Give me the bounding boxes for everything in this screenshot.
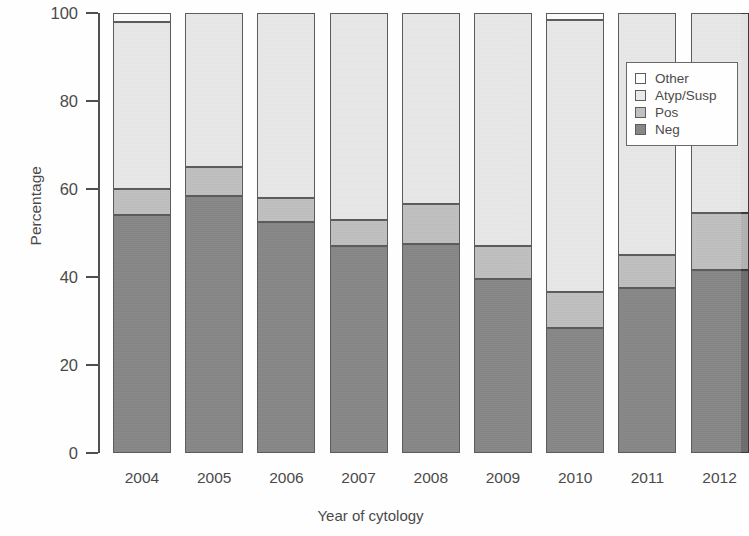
legend-item-neg: Neg bbox=[635, 121, 731, 138]
y-axis-tick-label: 20 bbox=[20, 357, 78, 373]
bar-2009 bbox=[474, 13, 532, 453]
bar-2010 bbox=[546, 13, 604, 453]
y-axis-tick bbox=[86, 100, 98, 102]
y-axis-tick-label: 40 bbox=[20, 269, 78, 285]
legend-item-other: Other bbox=[635, 70, 731, 87]
bar-segment-pos bbox=[330, 220, 388, 246]
x-axis-tick-label: 2006 bbox=[257, 470, 315, 486]
y-axis-tick bbox=[86, 276, 98, 278]
bar-2007 bbox=[330, 13, 388, 453]
x-axis-title: Year of cytology bbox=[0, 508, 741, 523]
bar-segment-neg bbox=[330, 246, 388, 453]
bar-segment-other bbox=[546, 13, 604, 20]
bar-segment-atyp-susp bbox=[474, 13, 532, 246]
x-axis-tick-label: 2011 bbox=[618, 470, 676, 486]
x-axis-tick-label: 2005 bbox=[185, 470, 243, 486]
y-axis-tick-label: 80 bbox=[20, 93, 78, 109]
bar-segment-atyp-susp bbox=[546, 20, 604, 293]
bar-segment-pos bbox=[691, 213, 749, 270]
bar-segment-atyp-susp bbox=[185, 13, 243, 167]
legend-item-label: Pos bbox=[655, 106, 678, 120]
y-axis-tick-label-text: 80 bbox=[20, 93, 78, 110]
bar-2008 bbox=[402, 13, 460, 453]
legend-swatch-icon bbox=[635, 73, 646, 84]
bar-2004 bbox=[113, 13, 171, 453]
legend: OtherAtyp/SuspPosNeg bbox=[626, 62, 738, 146]
x-axis-tick-label: 2012 bbox=[691, 470, 749, 486]
bar-segment-pos bbox=[257, 198, 315, 222]
bar-segment-neg bbox=[474, 279, 532, 453]
bar-segment-pos bbox=[618, 255, 676, 288]
bar-2006 bbox=[257, 13, 315, 453]
x-axis-tick-label: 2010 bbox=[546, 470, 604, 486]
bar-segment-pos bbox=[474, 246, 532, 279]
bar-segment-atyp-susp bbox=[330, 13, 388, 220]
legend-item-label: Atyp/Susp bbox=[655, 89, 717, 103]
legend-item-label: Neg bbox=[655, 123, 680, 137]
y-axis-tick-label-text: 40 bbox=[20, 269, 78, 286]
legend-swatch-icon bbox=[635, 90, 646, 101]
legend-item-pos: Pos bbox=[635, 104, 731, 121]
y-axis-title: Percentage bbox=[28, 146, 44, 266]
bar-segment-pos bbox=[402, 204, 460, 244]
bar-segment-neg bbox=[546, 328, 604, 453]
bar-segment-neg bbox=[257, 222, 315, 453]
y-axis-tick bbox=[86, 12, 98, 14]
bar-segment-neg bbox=[185, 196, 243, 453]
bar-segment-neg bbox=[402, 244, 460, 453]
y-axis-tick bbox=[86, 364, 98, 366]
legend-item-label: Other bbox=[655, 72, 689, 86]
legend-swatch-icon bbox=[635, 124, 646, 135]
x-axis-tick-label: 2008 bbox=[402, 470, 460, 486]
bar-segment-atyp-susp bbox=[257, 13, 315, 198]
bar-segment-neg bbox=[113, 215, 171, 453]
bar-segment-other bbox=[113, 13, 171, 22]
legend-swatch-icon bbox=[635, 107, 646, 118]
y-axis-tick-label: 0 bbox=[20, 445, 78, 461]
bar-segment-pos bbox=[546, 292, 604, 327]
y-axis-tick-label-text: 0 bbox=[20, 445, 78, 462]
y-axis-tick bbox=[86, 452, 98, 454]
y-axis-line bbox=[98, 13, 100, 453]
bar-segment-pos bbox=[185, 167, 243, 196]
y-axis-tick-label: 100 bbox=[20, 5, 78, 21]
y-axis-tick-label-text: 20 bbox=[20, 357, 78, 374]
legend-item-atyp-susp: Atyp/Susp bbox=[635, 87, 731, 104]
x-axis-tick-label: 2007 bbox=[330, 470, 388, 486]
x-axis-tick-label: 2004 bbox=[113, 470, 171, 486]
bar-segment-neg bbox=[691, 270, 749, 453]
x-axis-tick-label: 2009 bbox=[474, 470, 532, 486]
bar-segment-neg bbox=[618, 288, 676, 453]
bar-2005 bbox=[185, 13, 243, 453]
bar-segment-atyp-susp bbox=[402, 13, 460, 204]
y-axis-tick-label-text: 100 bbox=[20, 5, 78, 22]
bar-segment-pos bbox=[113, 189, 171, 215]
bar-segment-atyp-susp bbox=[113, 22, 171, 189]
y-axis-tick bbox=[86, 188, 98, 190]
